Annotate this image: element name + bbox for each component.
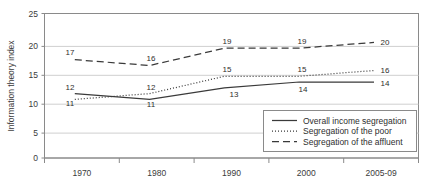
- y-axis-title: Information theory index: [6, 40, 16, 132]
- point-label-poor-2000: 15: [298, 65, 307, 74]
- x-axis-tick-label-2000: 2000: [297, 168, 316, 178]
- point-label-overall-2005-09: 14: [381, 79, 390, 88]
- legend: Overall income segregation Segregation o…: [264, 111, 417, 152]
- x-axis-tick-label-1970: 1970: [72, 168, 91, 178]
- point-label-affluent-2000: 19: [298, 37, 307, 46]
- point-label-poor-2005-09: 16: [381, 66, 390, 75]
- x-axis-tick-label-2005-09: 2005-09: [365, 168, 396, 178]
- x-axis-tick-label-1990: 1990: [222, 168, 241, 178]
- y-axis-tick-label-5: 5: [33, 128, 38, 138]
- legend-label-poor: Segregation of the poor: [303, 126, 392, 136]
- line-chart: 25 20 15 10 5 0 Information theory index…: [0, 0, 438, 192]
- y-axis-tick-label-20: 20: [29, 41, 39, 51]
- y-axis-tick-label-0: 0: [33, 153, 38, 163]
- y-axis-tick-label-10: 10: [29, 99, 39, 109]
- point-label-poor-1970: 11: [66, 99, 75, 108]
- legend-label-overall: Overall income segregation: [303, 116, 407, 126]
- point-label-overall-1980: 11: [147, 100, 156, 109]
- x-axis-tick-label-1980: 1980: [147, 168, 166, 178]
- point-label-overall-1990: 13: [230, 90, 239, 99]
- point-label-affluent-2005-09: 20: [381, 38, 390, 47]
- point-label-affluent-1970: 17: [66, 48, 75, 57]
- y-axis-tick-label-15: 15: [29, 70, 39, 80]
- x-tick-marks: [45, 158, 419, 163]
- chart-container: 25 20 15 10 5 0 Information theory index…: [0, 0, 438, 192]
- point-label-poor-1990: 15: [223, 65, 232, 74]
- point-label-affluent-1980: 16: [147, 54, 156, 63]
- point-label-poor-1980: 12: [147, 83, 156, 92]
- y-axis-tick-label-25: 25: [29, 9, 39, 19]
- point-label-affluent-1990: 19: [223, 37, 232, 46]
- point-label-overall-1970: 12: [66, 83, 75, 92]
- legend-label-affluent: Segregation of the affluent: [303, 137, 403, 147]
- point-label-overall-2000: 14: [299, 85, 308, 94]
